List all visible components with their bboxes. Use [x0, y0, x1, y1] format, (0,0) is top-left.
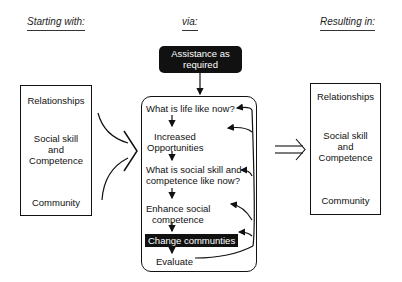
feedback-evaluate: [195, 246, 253, 258]
curve-lower: [102, 158, 128, 200]
connector-arrows: [0, 0, 402, 282]
feedback-spine: [252, 110, 254, 246]
chevron-merge: [124, 131, 137, 171]
double-arrow-result: [275, 139, 305, 160]
curve-upper: [98, 113, 128, 143]
